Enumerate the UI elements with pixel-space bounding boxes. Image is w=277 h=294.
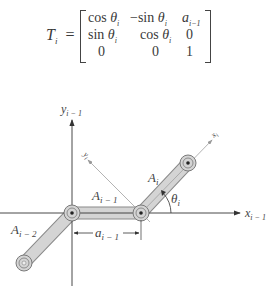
link-a-i-label: Ai bbox=[147, 170, 159, 187]
link-a-i-minus-1-label: Ai − 1 bbox=[91, 188, 118, 205]
y-i-label: yi bbox=[80, 149, 92, 161]
y-i-axis bbox=[88, 160, 141, 213]
link-a-i-minus-2-label: Ai − 2 bbox=[10, 222, 37, 239]
joint-i-minus-2 bbox=[16, 255, 32, 271]
link-diagram: yi − 1 xi − 1 xi yi Ai − 2 Ai − 1 Ai ai … bbox=[0, 0, 277, 294]
joint-i bbox=[133, 205, 149, 221]
theta-label: θi bbox=[171, 191, 180, 208]
joint-i-minus-1 bbox=[64, 205, 80, 221]
joint-i-plus-1 bbox=[180, 155, 196, 171]
x-i-label: xi bbox=[208, 129, 220, 141]
x-prev-label: xi − 1 bbox=[244, 206, 266, 222]
y-prev-label: yi − 1 bbox=[60, 102, 82, 118]
